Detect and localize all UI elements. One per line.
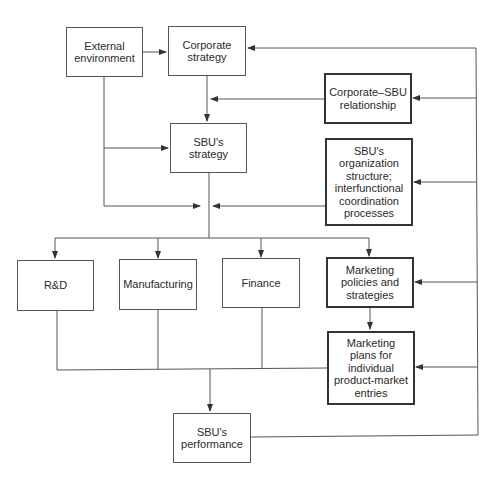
node-label: SBU's organization structure; interfunct… [335, 145, 404, 220]
node-label: SBU's performance [181, 426, 243, 451]
node-label: SBU's strategy [189, 136, 228, 161]
node-external-environment: External environment [66, 27, 143, 77]
node-label: R&D [44, 279, 67, 292]
node-label: External environment [74, 40, 135, 65]
node-label: Corporate strategy [183, 39, 232, 64]
node-label: Manufacturing [123, 278, 193, 291]
node-finance: Finance [222, 258, 300, 308]
node-sbu-performance: SBU's performance [173, 413, 251, 463]
node-sbu-strategy: SBU's strategy [170, 123, 247, 173]
node-marketing-policies: Marketing policies and strategies [326, 257, 414, 308]
node-sbu-organization: SBU's organization structure; interfunct… [325, 138, 413, 226]
node-label: Marketing policies and strategies [341, 264, 399, 302]
node-manufacturing: Manufacturing [119, 259, 197, 310]
node-label: Marketing plans for individual product-m… [334, 337, 408, 400]
diagram-canvas: External environment Corporate strategy … [0, 0, 501, 480]
node-corporate-sbu-relationship: Corporate–SBU relationship [324, 73, 412, 124]
node-label: Corporate–SBU relationship [329, 86, 407, 111]
node-marketing-plans: Marketing plans for individual product-m… [327, 331, 415, 405]
node-label: Finance [241, 277, 280, 290]
node-rnd: R&D [17, 260, 94, 311]
node-corporate-strategy: Corporate strategy [168, 26, 246, 76]
